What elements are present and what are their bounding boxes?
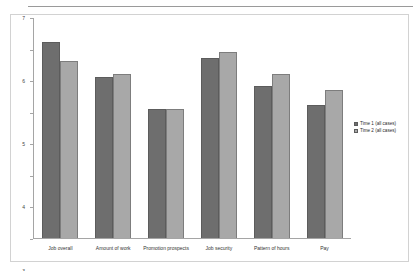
x-axis-line bbox=[33, 238, 351, 239]
y-axis-tick-label: 7 bbox=[22, 16, 25, 21]
chart-figure: 01234567 Job overallAmount of workPromot… bbox=[10, 14, 409, 262]
bar-group bbox=[87, 18, 140, 238]
x-axis-category-label: Promotion prospects bbox=[140, 243, 193, 257]
y-axis-tick-mark: 0 bbox=[30, 239, 33, 240]
bar bbox=[42, 42, 60, 238]
y-axis-tick-mark: 6 bbox=[30, 50, 33, 51]
bar-groups bbox=[34, 18, 351, 238]
x-axis-category-label: Pay bbox=[298, 243, 351, 257]
legend-item[interactable]: Time 2 (all cases) bbox=[354, 129, 408, 134]
y-axis-tick-mark: 2 bbox=[30, 176, 33, 177]
y-axis-tick-mark: 5 bbox=[30, 81, 33, 82]
bar bbox=[325, 90, 343, 238]
x-axis-category-label: Job overall bbox=[34, 243, 87, 257]
legend-swatch-icon bbox=[354, 122, 358, 126]
plot-area: 01234567 bbox=[33, 18, 351, 239]
x-axis-category-label: Amount of work bbox=[87, 243, 140, 257]
bar-group bbox=[34, 18, 87, 238]
bar bbox=[166, 109, 184, 238]
y-axis-tick-mark: 7 bbox=[30, 18, 33, 19]
bar bbox=[201, 58, 219, 238]
legend-swatch-icon bbox=[354, 129, 358, 133]
bar-group bbox=[245, 18, 298, 238]
bar bbox=[219, 52, 237, 238]
bar bbox=[60, 61, 78, 238]
y-axis-tick-label: 6 bbox=[22, 79, 25, 84]
y-axis-tick-mark: 3 bbox=[30, 144, 33, 145]
x-axis-category-label: Job security bbox=[192, 243, 245, 257]
y-axis-tick-label: 4 bbox=[22, 205, 25, 210]
bar-group bbox=[298, 18, 351, 238]
y-axis-tick-mark: 1 bbox=[30, 207, 33, 208]
page-horizontal-rule bbox=[28, 6, 413, 7]
legend-item-label: Time 1 (all cases) bbox=[360, 122, 396, 127]
x-axis-category-label: Pattern of hours bbox=[245, 243, 298, 257]
y-axis-tick-mark: 4 bbox=[30, 113, 33, 114]
bar bbox=[113, 74, 131, 238]
legend-item-label: Time 2 (all cases) bbox=[360, 129, 396, 134]
bar bbox=[95, 77, 113, 238]
bar-group bbox=[192, 18, 245, 238]
legend-item[interactable]: Time 1 (all cases) bbox=[354, 122, 408, 127]
bar bbox=[254, 86, 272, 238]
bar-group bbox=[140, 18, 193, 238]
bar bbox=[148, 109, 166, 238]
y-axis-tick-label: 5 bbox=[22, 142, 25, 147]
bar bbox=[307, 105, 325, 238]
bar bbox=[272, 74, 290, 238]
chart-legend: Time 1 (all cases)Time 2 (all cases) bbox=[354, 122, 408, 135]
x-axis-category-labels: Job overallAmount of workPromotion prosp… bbox=[34, 243, 351, 257]
